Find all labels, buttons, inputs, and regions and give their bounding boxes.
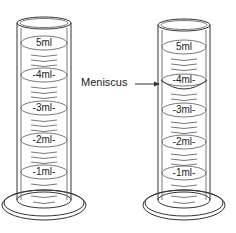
meniscus-annotation: Meniscus — [81, 76, 160, 88]
left-cylinder: 5ml -4ml- -3ml- -2ml- -1ml- — [2, 17, 86, 220]
mark-3ml: -3ml- — [173, 104, 196, 115]
arrow-head-icon — [154, 82, 160, 87]
meniscus-label: Meniscus — [81, 76, 128, 88]
mark-5ml: 5ml — [36, 37, 52, 48]
mark-5ml: 5ml — [176, 41, 192, 52]
mark-1ml: -1ml- — [33, 166, 56, 177]
right-cylinder: 5ml -4ml- -3ml- -2ml- -1ml- — [143, 19, 225, 220]
mark-4ml: -4ml- — [173, 74, 196, 85]
mark-2ml: -2ml- — [173, 136, 196, 147]
mark-2ml: -2ml- — [33, 134, 56, 145]
graduated-cylinders-diagram: 5ml -4ml- -3ml- -2ml- -1ml- 5ml -4ml- — [0, 0, 236, 233]
mark-3ml: -3ml- — [33, 102, 56, 113]
mark-4ml: -4ml- — [33, 69, 56, 80]
mark-1ml: -1ml- — [173, 167, 196, 178]
